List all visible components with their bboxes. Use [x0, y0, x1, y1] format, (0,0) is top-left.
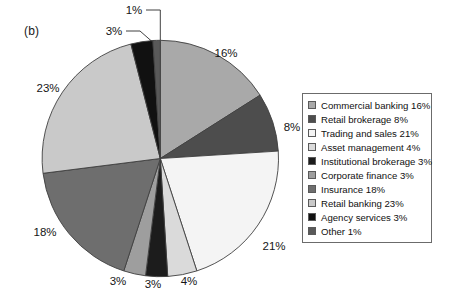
- pie-slices: [42, 40, 278, 276]
- legend-label: Other 1%: [321, 226, 362, 237]
- legend-label: Retail brokerage 8%: [321, 114, 408, 125]
- legend-item: Asset management 4%: [308, 141, 425, 153]
- legend-item: Retail banking 23%: [308, 197, 425, 209]
- legend-swatch: [308, 115, 316, 123]
- legend-label: Corporate finance 3%: [321, 170, 414, 181]
- leader-line-other: [146, 10, 160, 40]
- pct-label-retail-banking: 23%: [36, 82, 59, 94]
- legend-swatch: [308, 171, 316, 179]
- legend-item: Agency services 3%: [308, 211, 425, 223]
- pie-svg: [0, 0, 300, 305]
- pct-label-retail-brokerage: 8%: [284, 121, 301, 133]
- pct-label-corporate-finance: 3%: [110, 275, 127, 287]
- legend-item: Corporate finance 3%: [308, 169, 425, 181]
- legend-item: Retail brokerage 8%: [308, 113, 425, 125]
- pct-label-commercial-banking: 16%: [214, 47, 237, 59]
- legend-swatch: [308, 157, 316, 165]
- pct-label-agency-services: 3%: [106, 25, 123, 37]
- legend-swatch: [308, 129, 316, 137]
- legend-item: Trading and sales 21%: [308, 127, 425, 139]
- legend-item: Insurance 18%: [308, 183, 425, 195]
- figure-panel-b: (b) 16% 8% 21% 4% 3% 3% 18% 23% 3% 1% Co…: [0, 0, 465, 305]
- chart-legend: Commercial banking 16%Retail brokerage 8…: [302, 93, 432, 243]
- legend-item: Other 1%: [308, 225, 425, 237]
- legend-label: Agency services 3%: [321, 212, 407, 223]
- legend-label: Institutional brokerage 3%: [321, 156, 432, 167]
- legend-swatch: [308, 143, 316, 151]
- legend-swatch: [308, 101, 316, 109]
- leader-line-agency: [126, 31, 152, 42]
- legend-swatch: [308, 213, 316, 221]
- legend-label: Insurance 18%: [321, 184, 385, 195]
- pct-label-institutional-brokerage: 3%: [145, 278, 162, 290]
- pie-chart: 16% 8% 21% 4% 3% 3% 18% 23% 3% 1%: [0, 0, 300, 305]
- pct-label-other: 1%: [126, 4, 143, 16]
- pct-label-insurance: 18%: [33, 226, 56, 238]
- legend-item: Institutional brokerage 3%: [308, 155, 425, 167]
- legend-label: Retail banking 23%: [321, 198, 404, 209]
- legend-swatch: [308, 227, 316, 235]
- legend-swatch: [308, 199, 316, 207]
- legend-item: Commercial banking 16%: [308, 99, 425, 111]
- pct-label-trading-and-sales: 21%: [262, 240, 285, 252]
- legend-swatch: [308, 185, 316, 193]
- legend-label: Trading and sales 21%: [321, 128, 419, 139]
- legend-label: Asset management 4%: [321, 142, 420, 153]
- pct-label-asset-management: 4%: [181, 275, 198, 287]
- legend-label: Commercial banking 16%: [321, 100, 430, 111]
